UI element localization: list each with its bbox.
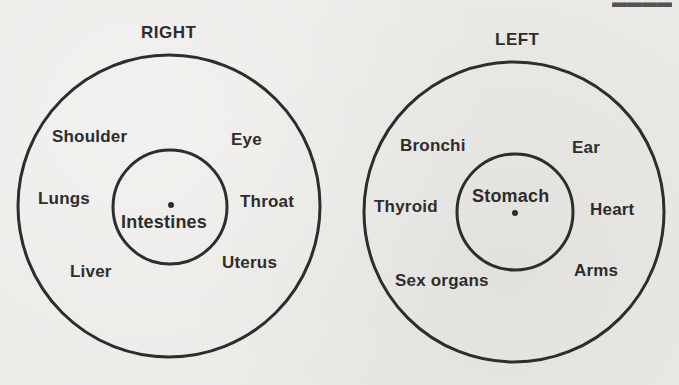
left-inner-label-stomach: Stomach xyxy=(472,187,549,205)
right-label-eye: Eye xyxy=(231,131,262,148)
right-inner-label-intestines: Intestines xyxy=(121,213,207,231)
left-label-arms: Arms xyxy=(574,262,618,279)
right-label-throat: Throat xyxy=(240,193,294,210)
left-label-sex-organs: Sex organs xyxy=(395,272,489,289)
left-label-thyroid: Thyroid xyxy=(374,198,438,215)
right-label-uterus: Uterus xyxy=(222,254,277,271)
left-label-bronchi: Bronchi xyxy=(400,137,466,154)
diagram-canvas xyxy=(0,0,679,385)
left-label-heart: Heart xyxy=(590,201,634,218)
right-center-dot xyxy=(168,202,174,208)
right-label-liver: Liver xyxy=(70,263,112,280)
right-panel-title: RIGHT xyxy=(141,24,196,41)
right-label-lungs: Lungs xyxy=(38,190,90,207)
left-center-dot xyxy=(512,210,518,216)
left-label-ear: Ear xyxy=(572,139,600,156)
right-label-shoulder: Shoulder xyxy=(52,128,127,145)
left-panel-title: LEFT xyxy=(495,31,540,48)
